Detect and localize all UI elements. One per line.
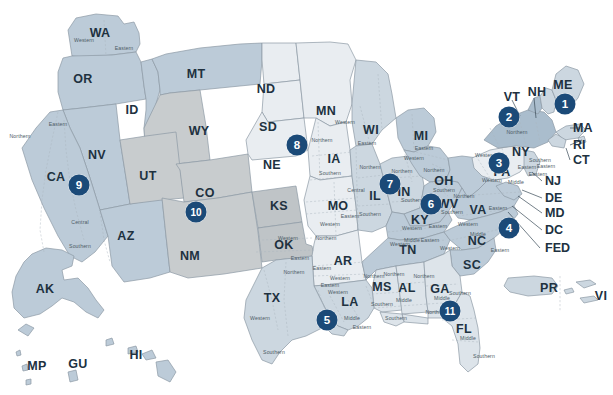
circuit-badge-4[interactable]: 4 (499, 218, 520, 239)
circuit-badge-1[interactable]: 1 (555, 94, 576, 115)
circuit-badge-5[interactable]: 5 (317, 310, 338, 331)
circuit-badge-10[interactable]: 10 (186, 202, 207, 223)
map-geometry-layer: .s{stroke:#8d9aa5;stroke-width:.7;stroke… (0, 0, 613, 395)
circuit-badge-11[interactable]: 11 (440, 301, 461, 322)
circuit-badge-8[interactable]: 8 (287, 135, 308, 156)
circuit-badge-3[interactable]: 3 (489, 153, 510, 174)
circuit-badge-7[interactable]: 7 (380, 174, 401, 195)
circuit-badge-2[interactable]: 2 (499, 107, 520, 128)
us-judicial-circuits-map: .s{stroke:#8d9aa5;stroke-width:.7;stroke… (0, 0, 613, 395)
circuit-badge-9[interactable]: 9 (69, 175, 90, 196)
circuit-badge-6[interactable]: 6 (421, 194, 442, 215)
